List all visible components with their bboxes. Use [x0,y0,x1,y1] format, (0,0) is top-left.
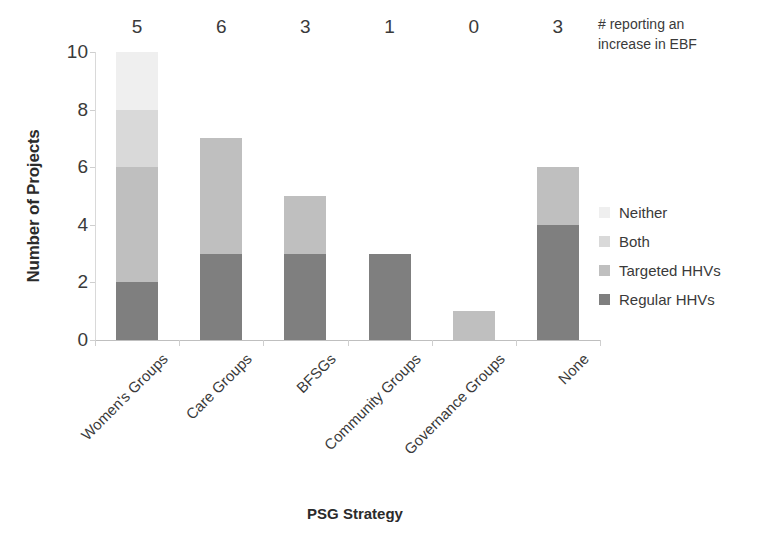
bar-column[interactable] [284,52,326,340]
annotation-line-1: # reporting an [598,14,758,34]
bar-segment[interactable] [537,225,579,340]
y-tick-label-8: 8 [48,99,88,121]
y-axis-tick-labels: 0246810 [40,52,88,340]
bar-value-label: 6 [216,16,227,38]
legend-label: Targeted HHVs [619,262,721,279]
y-tick-label-6: 6 [48,156,88,178]
legend-swatch-icon [599,207,610,218]
legend-swatch-icon [599,236,610,247]
legend-item[interactable]: Targeted HHVs [599,258,759,283]
legend-item[interactable]: Neither [599,200,759,225]
bar-column[interactable] [200,52,242,340]
legend-label: Both [619,233,650,250]
bar-value-label: 1 [384,16,395,38]
x-axis-title: PSG Strategy [90,505,620,522]
x-axis-category-labels: Women's GroupsCare GroupsBFSGsCommunity … [95,340,600,500]
bar-value-label: 3 [300,16,311,38]
bar-segment[interactable] [284,254,326,340]
bar-value-label: 3 [553,16,564,38]
bar-segment[interactable] [116,110,158,168]
y-tick-mark-6 [90,167,95,168]
stacked-bar-chart: Number of Projects 0246810 Women's Group… [0,0,764,550]
legend-label: Regular HHVs [619,291,715,308]
data-label-annotation: # reporting an increase in EBF [598,14,758,55]
legend-swatch-icon [599,265,610,276]
bar-column[interactable] [116,52,158,340]
bar-column[interactable] [453,52,495,340]
y-tick-mark-10 [90,52,95,53]
bar-segment[interactable] [200,138,242,253]
legend-item[interactable]: Both [599,229,759,254]
y-tick-label-2: 2 [48,271,88,293]
x-tick-mark-6 [600,340,601,346]
bar-column[interactable] [369,52,411,340]
bar-column[interactable] [537,52,579,340]
chart-legend: NeitherBothTargeted HHVsRegular HHVs [599,200,759,316]
legend-item[interactable]: Regular HHVs [599,287,759,312]
plot-area [95,52,600,340]
bar-segment[interactable] [284,196,326,254]
bar-segment[interactable] [453,311,495,340]
y-axis-line [95,52,96,340]
y-tick-mark-8 [90,110,95,111]
y-tick-label-0: 0 [48,329,88,351]
bar-segment[interactable] [116,167,158,282]
bar-segment[interactable] [200,254,242,340]
bar-value-label: 5 [132,16,143,38]
annotation-line-2: increase in EBF [598,34,758,54]
legend-label: Neither [619,204,667,221]
bar-segment[interactable] [537,167,579,225]
bar-value-label: 0 [468,16,479,38]
legend-swatch-icon [599,294,610,305]
bar-segment[interactable] [369,254,411,340]
y-tick-label-10: 10 [48,41,88,63]
y-tick-label-4: 4 [48,214,88,236]
bar-segment[interactable] [116,282,158,340]
bar-segment[interactable] [116,52,158,110]
y-tick-mark-2 [90,282,95,283]
y-tick-mark-4 [90,225,95,226]
